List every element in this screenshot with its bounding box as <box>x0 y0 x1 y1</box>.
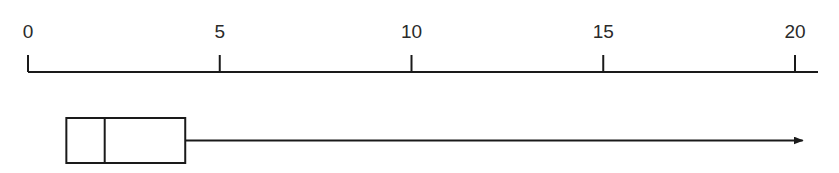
interquartile-box <box>66 118 185 163</box>
x-axis: 05101520 <box>23 21 818 72</box>
tick-label: 10 <box>401 21 422 42</box>
tick-label: 20 <box>784 21 805 42</box>
box-plot-chart: 05101520 <box>0 0 839 173</box>
tick-label: 5 <box>214 21 225 42</box>
tick-label: 15 <box>593 21 614 42</box>
box-plot <box>66 118 802 163</box>
tick-label: 0 <box>23 21 34 42</box>
